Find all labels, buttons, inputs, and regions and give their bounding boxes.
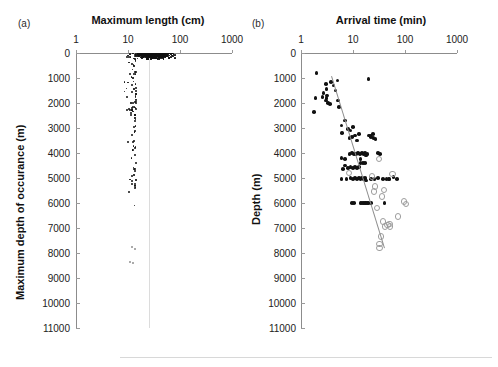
data-point: [131, 157, 133, 159]
data-point-filled: [325, 87, 329, 91]
ytick-label-a-5: 5000: [26, 173, 70, 184]
data-point: [124, 91, 126, 93]
data-point: [135, 55, 137, 57]
data-point: [147, 53, 149, 55]
data-point-filled: [315, 71, 319, 75]
data-point-outlier: [132, 262, 134, 264]
data-point: [134, 187, 136, 189]
data-point-open: [379, 193, 385, 199]
ytick-label-a-8: 8000: [26, 248, 70, 259]
data-point-open: [401, 198, 407, 204]
data-point-open: [395, 213, 401, 219]
data-point: [127, 82, 129, 84]
scatter-cloud-a: [76, 53, 232, 328]
data-point-filled: [345, 177, 349, 181]
data-point-open: [381, 187, 387, 193]
data-point: [129, 73, 131, 75]
ytick-label-b-11: 11000: [252, 323, 296, 334]
data-point-filled: [364, 179, 368, 183]
data-point: [155, 57, 157, 59]
data-point: [126, 96, 128, 98]
data-point: [174, 54, 176, 56]
xtick-b-3: [457, 50, 458, 53]
data-point-open: [376, 156, 382, 162]
xtick-label-a-2: 100: [172, 34, 189, 45]
data-point: [134, 117, 136, 119]
xtick-label-a-0: 1: [73, 34, 79, 45]
data-point-filled: [341, 167, 345, 171]
data-point-filled: [340, 177, 344, 181]
data-point: [131, 91, 133, 93]
data-point: [132, 53, 134, 54]
data-point: [146, 58, 148, 60]
data-point-filled: [351, 125, 355, 129]
ytick-b-11: [301, 328, 305, 329]
data-point: [124, 81, 126, 83]
ytick-label-b-3: 3000: [252, 123, 296, 134]
data-point: [130, 53, 132, 55]
data-point: [131, 134, 133, 136]
data-point: [133, 81, 134, 82]
footer-rule: [120, 357, 492, 358]
data-point: [134, 71, 136, 73]
data-point: [134, 185, 136, 187]
data-point: [135, 73, 136, 74]
data-point: [130, 102, 132, 104]
data-point-filled: [376, 176, 380, 180]
y-axis-label-a: Maximum depth of occurance (m): [14, 125, 26, 300]
scatter-cloud-b: [301, 53, 457, 328]
data-point-filled: [352, 201, 356, 205]
data-point: [128, 191, 130, 193]
data-point: [135, 61, 136, 62]
ytick-label-a-11: 11000: [26, 323, 70, 334]
ytick-label-a-3: 3000: [26, 123, 70, 134]
data-point: [132, 111, 134, 113]
data-point: [128, 62, 130, 64]
ytick-label-a-4: 4000: [26, 148, 70, 159]
data-point-filled: [357, 132, 361, 136]
panel-title-a: Maximum length (cm): [38, 14, 258, 26]
data-point: [126, 88, 127, 89]
ytick-label-a-7: 7000: [26, 223, 70, 234]
data-point: [131, 84, 133, 86]
panel-tag-b: (b): [252, 18, 264, 29]
ytick-label-a-1: 1000: [26, 73, 70, 84]
data-point: [162, 58, 164, 60]
data-point: [150, 55, 152, 57]
data-point-open: [374, 205, 380, 211]
data-point-filled: [395, 177, 399, 181]
data-point-filled: [367, 77, 371, 81]
data-point: [135, 87, 137, 89]
data-point: [131, 180, 133, 182]
data-point-filled: [366, 152, 370, 156]
data-point: [135, 97, 137, 99]
data-point-filled: [374, 137, 378, 141]
panel-tag-a: (a): [18, 18, 30, 29]
data-point-filled: [343, 164, 347, 168]
xtick-label-b-0: 1: [298, 34, 304, 45]
ytick-label-b-2: 2000: [252, 98, 296, 109]
data-point-open: [369, 173, 375, 179]
data-point: [130, 114, 132, 116]
data-point: [159, 54, 161, 56]
data-point: [135, 83, 136, 84]
xtick-label-b-2: 100: [397, 34, 414, 45]
data-point-filled: [340, 124, 344, 128]
data-point: [133, 58, 134, 59]
ytick-label-a-2: 2000: [26, 98, 70, 109]
data-point: [130, 56, 131, 57]
data-point: [135, 162, 137, 164]
data-point-open: [376, 245, 382, 251]
data-point-open: [346, 170, 352, 176]
data-point: [134, 114, 136, 116]
data-point: [137, 58, 139, 60]
xtick-label-a-3: 1000: [221, 34, 243, 45]
data-point: [133, 65, 134, 66]
ytick-label-a-0: 0: [26, 48, 70, 59]
data-point: [168, 56, 170, 58]
y-axis-label-b: Depth (m): [250, 174, 262, 225]
ytick-label-b-10: 10000: [252, 298, 296, 309]
xtick-label-a-1: 10: [122, 34, 133, 45]
data-point-outlier: [134, 248, 136, 250]
data-point: [135, 125, 137, 127]
